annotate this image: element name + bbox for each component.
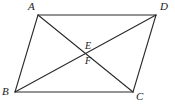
parallelogram-diagonals — [15, 15, 156, 92]
figure-canvas — [0, 0, 175, 107]
edge-DC — [133, 15, 156, 92]
point-label-F: F — [85, 56, 91, 66]
point-label-E: E — [85, 41, 91, 51]
vertex-label-C: C — [136, 91, 143, 102]
vertex-label-D: D — [160, 1, 168, 12]
geometry-figure: A D B C E F — [0, 0, 175, 107]
vertex-label-A: A — [28, 1, 35, 12]
vertex-label-B: B — [2, 86, 9, 97]
edge-AB — [15, 15, 38, 92]
diagonal-BD — [15, 15, 156, 92]
